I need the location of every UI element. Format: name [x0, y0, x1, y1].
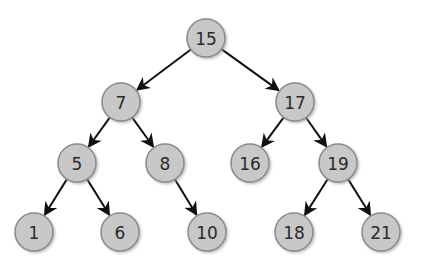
edge-15-to-17: [221, 49, 278, 90]
edge-19-to-18: [305, 179, 328, 215]
tree-node-5: 5: [58, 144, 96, 182]
node-label: 8: [160, 154, 171, 174]
tree-node-7: 7: [102, 83, 140, 121]
edge-8-to-10: [175, 179, 197, 215]
node-label: 6: [115, 223, 126, 243]
node-label: 1: [29, 223, 40, 243]
edge-19-to-21: [348, 179, 370, 215]
tree-node-16: 16: [231, 144, 269, 182]
node-label: 16: [239, 154, 261, 174]
edge-5-to-6: [87, 179, 109, 215]
tree-node-8: 8: [146, 144, 184, 182]
tree-node-18: 18: [275, 213, 313, 251]
edges-group: [45, 49, 371, 215]
node-label: 19: [327, 154, 349, 174]
node-label: 5: [72, 154, 83, 174]
edge-17-to-19: [306, 118, 327, 147]
tree-node-19: 19: [319, 144, 357, 182]
nodes-group: 1571758161916101821: [15, 19, 400, 251]
tree-node-6: 6: [101, 213, 139, 251]
edge-7-to-5: [89, 117, 110, 146]
node-label: 18: [283, 223, 305, 243]
tree-node-1: 1: [15, 213, 53, 251]
edge-5-to-1: [45, 179, 67, 215]
binary-tree-diagram: 1571758161916101821: [0, 0, 425, 274]
tree-node-21: 21: [362, 213, 400, 251]
tree-node-17: 17: [276, 83, 314, 121]
tree-node-15: 15: [187, 19, 225, 57]
edge-7-to-8: [132, 117, 153, 146]
tree-node-10: 10: [188, 213, 226, 251]
node-label: 15: [195, 29, 217, 49]
node-label: 21: [370, 223, 392, 243]
edge-15-to-7: [137, 49, 191, 90]
node-label: 7: [116, 93, 127, 113]
edge-17-to-16: [262, 117, 284, 147]
node-label: 17: [284, 93, 306, 113]
node-label: 10: [196, 223, 218, 243]
